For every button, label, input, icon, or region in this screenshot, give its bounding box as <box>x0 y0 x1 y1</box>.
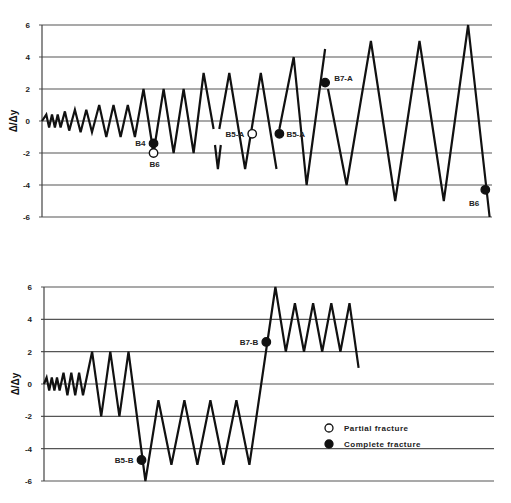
series-line <box>215 145 221 169</box>
complete-fracture-marker <box>275 130 283 138</box>
complete-fracture-marker <box>137 456 145 464</box>
annotation-label: B5-A <box>226 130 245 139</box>
y-tick-label: -4 <box>23 181 31 190</box>
annotation-label: B4 <box>135 139 146 148</box>
y-tick-label: 2 <box>26 85 31 94</box>
y-tick-label: -6 <box>25 477 33 486</box>
open-circle-icon <box>325 424 333 432</box>
series-line <box>279 49 325 185</box>
y-tick-label: 2 <box>28 348 33 357</box>
filled-circle-icon <box>325 440 333 448</box>
partial-fracture-marker <box>149 149 157 157</box>
y-tick-label: -4 <box>25 445 33 454</box>
y-tick-label: 4 <box>26 53 31 62</box>
legend-label: Partial fracture <box>344 424 409 433</box>
y-tick-label: 0 <box>28 380 33 389</box>
chart-top: 6420-2-4-6Δ/ΔyB4B6B5-AB5-AB7-AB6 <box>8 21 492 222</box>
y-axis-label: Δ/Δy <box>8 109 19 132</box>
annotation-label: B7-B <box>240 338 259 347</box>
series-line <box>42 73 214 153</box>
complete-fracture-marker <box>149 139 157 147</box>
complete-fracture-marker <box>321 78 329 86</box>
y-axis-label: Δ/Δy <box>10 372 21 395</box>
chart-canvas: 6420-2-4-6Δ/ΔyB4B6B5-AB5-AB7-AB66420-2-4… <box>0 0 511 503</box>
annotation-label: B6 <box>150 160 161 169</box>
y-tick-label: 4 <box>28 315 33 324</box>
annotation-label: B5-A <box>286 130 305 139</box>
y-tick-label: -2 <box>23 149 31 158</box>
complete-fracture-marker <box>262 338 270 346</box>
chart-bottom: 6420-2-4-6Δ/ΔyB5-BB7-B <box>10 283 494 486</box>
legend-label: Complete fracture <box>344 440 421 449</box>
complete-fracture-marker <box>481 186 489 194</box>
partial-fracture-marker <box>248 130 256 138</box>
y-tick-label: 6 <box>28 283 33 292</box>
annotation-label: B7-A <box>334 74 353 83</box>
y-tick-label: -2 <box>25 412 33 421</box>
y-tick-label: -6 <box>23 213 31 222</box>
y-tick-label: 6 <box>26 21 31 30</box>
annotation-label: B5-B <box>115 456 134 465</box>
y-tick-label: 0 <box>26 117 31 126</box>
annotation-label: B6 <box>469 199 480 208</box>
legend: Partial fractureComplete fracture <box>325 424 421 449</box>
